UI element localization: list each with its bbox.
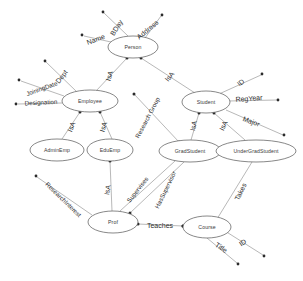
relationship-label-gradstudent-hassupervisor: HasSupervisor [153,170,177,210]
attribute-endpoint-dot [161,14,164,17]
entity-label: Student [197,99,216,105]
entity-gradstudent[interactable]: GradStudent [159,140,221,162]
relationship-label-student-gradstudent-isa: IsA [189,120,198,132]
attribute-label-course-title: Title [214,241,229,254]
relationship-label-student-undergrad-isa: IsA [218,119,229,131]
entity-label: Person [124,44,141,50]
attribute-endpoint-dot [18,79,21,82]
entity-label: AdminEmp [44,147,70,153]
attribute-label-employee-joiningdate: JoiningDate [25,79,59,97]
entity-label: GradStudent [175,148,206,154]
attribute-endpoint-dot [44,60,47,63]
edge-line [217,162,252,219]
entity-label: UnderGradStudent [233,148,279,154]
entity-label: Prof [108,219,118,225]
relationship-label-person-employee-isa: IsA [104,70,114,82]
attribute-label-employee-designation: Designation [24,98,58,107]
attribute-label-prof-researchinterest: ResearchInterest [44,180,83,218]
attribute-endpoint-dot [263,255,266,258]
relationship-label-employee-adminemp-isa: IsA [66,120,76,132]
attribute-endpoint-dot [277,99,280,102]
relationship-label-prof-teaches-course: Teaches [147,222,174,229]
entity-person[interactable]: Person [108,36,158,58]
attribute-endpoint-dot [283,134,286,137]
attribute-label-student-regyear: RegYear [235,94,263,104]
relationship-label-employee-eduemp-isa: IsA [98,121,108,133]
er-diagram-canvas: PersonEmployeeStudentAdminEmpEduEmpGradS… [0,0,303,281]
er-diagram-svg: PersonEmployeeStudentAdminEmpEduEmpGradS… [0,0,303,281]
entity-label: EduEmp [100,147,121,153]
entity-undergradstudent[interactable]: UnderGradStudent [216,140,296,162]
relationship-label-eduemp-prof-isa: IsA [103,184,112,196]
attribute-label-person-address: Address [135,18,160,40]
attribute-endpoint-dot [15,103,18,106]
attribute-endpoint-dot [237,263,240,266]
entity-adminemp[interactable]: AdminEmp [30,139,84,161]
entity-student[interactable]: Student [182,91,230,113]
connector-dot [133,93,136,96]
entity-prof[interactable]: Prof [88,211,138,233]
entity-course[interactable]: Course [183,216,231,238]
attribute-endpoint-dot [102,11,105,14]
attribute-endpoint-dot [81,34,84,37]
entity-employee[interactable]: Employee [62,90,118,112]
entity-label: Course [198,224,215,230]
attribute-endpoint-dot [261,73,264,76]
entity-label: Employee [78,98,102,104]
attribute-label-course-id: ID [238,238,248,248]
relationship-label-prof-supervises: Supervises [125,175,149,203]
attribute-label-person-name: Name [86,33,106,46]
attribute-label-person-bday: BDay [109,18,125,37]
relationship-label-undergrad-takes-course: Takes [233,182,248,202]
entity-eduemp[interactable]: EduEmp [87,139,133,161]
attribute-endpoint-dot [35,175,38,178]
relationship-label-gradstudent-research-group: Research Group [133,95,161,139]
relationship-label-person-student-isa: IsA [164,70,176,83]
attribute-label-student-major: Major [241,115,261,129]
